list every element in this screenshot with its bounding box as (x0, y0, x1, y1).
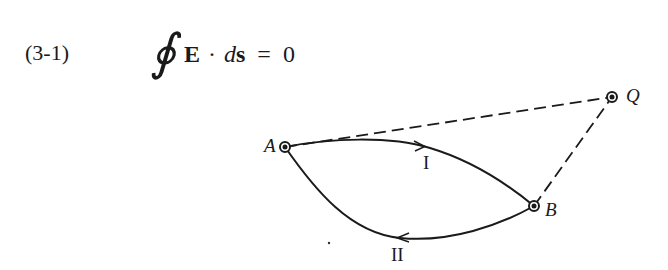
point-B-icon (529, 201, 539, 211)
dashed-line-B-Q (534, 97, 612, 206)
label-path-I: I (423, 152, 429, 174)
dashed-line-A-Q (285, 97, 612, 147)
label-path-II: II (391, 244, 404, 266)
point-Q-icon (607, 92, 617, 102)
point-A-icon (280, 142, 290, 152)
label-B: B (545, 199, 557, 221)
label-Q: Q (626, 85, 640, 107)
figure-canvas: (3-1) ∮ E · ds = 0 A (0, 0, 668, 270)
path-diagram (0, 0, 668, 270)
path-II-curve (285, 147, 534, 239)
print-speck (328, 242, 330, 244)
label-A: A (264, 135, 276, 157)
path-I-curve (285, 140, 534, 206)
